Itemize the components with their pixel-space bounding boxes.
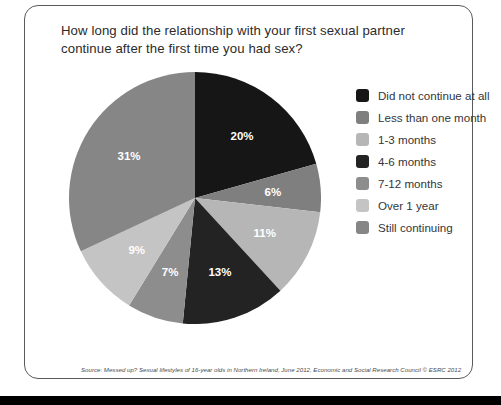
pie-slice-value-label: 13% bbox=[208, 266, 231, 278]
pie-slice-value-label: 9% bbox=[128, 244, 145, 256]
legend-item-label: Less than one month bbox=[378, 111, 486, 124]
pie-slice-value-label: 7% bbox=[162, 266, 179, 278]
legend-item-label: Did not continue at all bbox=[378, 89, 490, 102]
legend-swatch-icon bbox=[356, 199, 369, 212]
pie-slice-value-label: 6% bbox=[265, 186, 282, 198]
legend-item[interactable]: Over 1 year bbox=[356, 194, 501, 216]
legend-item[interactable]: Still continuing bbox=[356, 216, 501, 238]
pie-slices bbox=[69, 72, 321, 324]
legend-item-label: Still continuing bbox=[378, 221, 453, 234]
legend-swatch-icon bbox=[356, 221, 369, 234]
pie-slice-value-label: 11% bbox=[254, 227, 276, 239]
legend-item-label: Over 1 year bbox=[378, 199, 439, 212]
chart-card: How long did the relationship with your … bbox=[24, 5, 473, 379]
legend-item-label: 7-12 months bbox=[378, 177, 442, 190]
legend-item[interactable]: 7-12 months bbox=[356, 172, 501, 194]
legend-item[interactable]: Did not continue at all bbox=[356, 84, 501, 106]
legend-swatch-icon bbox=[356, 89, 369, 102]
legend-swatch-icon bbox=[356, 155, 369, 168]
legend-swatch-icon bbox=[356, 111, 369, 124]
source-note: Source: Messed up? Sexual lifestyles of … bbox=[81, 366, 481, 373]
pie-slice-value-label: 31% bbox=[118, 150, 141, 162]
legend-item[interactable]: 4-6 months bbox=[356, 150, 501, 172]
page-title: How long did the relationship with your … bbox=[61, 22, 451, 58]
legend-item[interactable]: 1-3 months bbox=[356, 128, 501, 150]
legend-swatch-icon bbox=[356, 133, 369, 146]
legend-item-label: 1-3 months bbox=[378, 133, 436, 146]
legend: Did not continue at allLess than one mon… bbox=[356, 84, 501, 238]
legend-item-label: 4-6 months bbox=[378, 155, 436, 168]
pie-chart: 20%6%11%13%7%9%31% bbox=[69, 72, 321, 324]
legend-item[interactable]: Less than one month bbox=[356, 106, 501, 128]
pie-slice-value-label: 20% bbox=[231, 130, 254, 142]
pie-chart-svg: 20%6%11%13%7%9%31% bbox=[69, 72, 321, 324]
bottom-bar bbox=[0, 396, 501, 405]
legend-swatch-icon bbox=[356, 177, 369, 190]
